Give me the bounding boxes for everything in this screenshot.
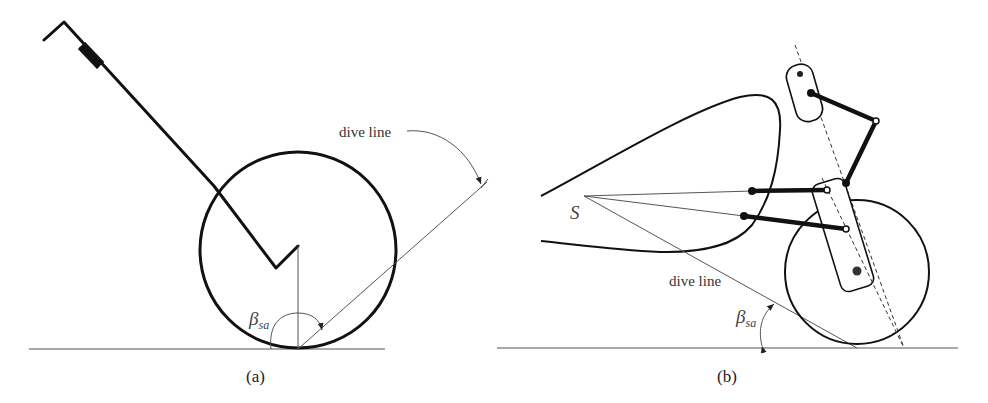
ray-to-upper-link	[584, 191, 752, 196]
joint-pushrod-upright	[842, 179, 850, 187]
telescopic-fork	[44, 22, 298, 268]
point-s-label: S	[570, 202, 580, 223]
dive-line-label-a: dive line	[339, 124, 391, 140]
panel-b: S dive line β	[497, 45, 958, 386]
panel-a: dive line βsa (a)	[29, 22, 488, 386]
upper-wishbone	[752, 190, 827, 191]
dive-line-a	[298, 182, 487, 349]
spring-icon	[79, 45, 101, 68]
dive-line-label-b: dive line	[669, 273, 721, 289]
dive-line-label-arrow-a	[407, 131, 481, 184]
caption-a: (a)	[246, 367, 265, 386]
joint-shock-top	[807, 89, 815, 97]
angle-arc-a	[271, 313, 322, 349]
joint-upper-body	[748, 187, 756, 195]
upright	[810, 176, 875, 293]
joint-lower-body	[740, 212, 748, 220]
angle-label-b: βsa	[735, 306, 756, 330]
ray-to-lower-link	[584, 196, 744, 216]
joint-rocker	[873, 118, 879, 124]
caption-b: (b)	[717, 367, 737, 386]
joint-lower-upright	[843, 226, 849, 232]
dive-line-b	[584, 196, 857, 348]
suspension-dive-line-figure: dive line βsa (a) S dive line	[0, 0, 988, 403]
wheel-hub	[853, 267, 862, 276]
pushrod-link	[846, 121, 876, 183]
joint-upper-upright	[824, 187, 830, 193]
body-outline	[541, 95, 780, 252]
shock-absorber	[784, 61, 826, 124]
angle-arc-b	[760, 304, 774, 346]
angle-label-a: βsa	[248, 308, 269, 332]
